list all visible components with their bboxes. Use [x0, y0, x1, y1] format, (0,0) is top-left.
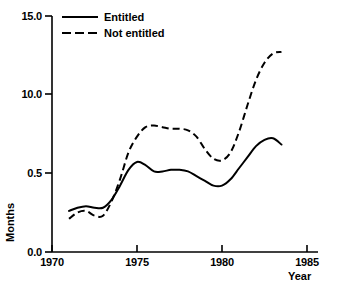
series-line-not-entitled [69, 52, 282, 219]
y-tick-label-5: 0.5 [6, 167, 42, 179]
series-line-entitled [69, 138, 282, 211]
y-tick-label-15: 15.0 [6, 10, 42, 22]
x-tick-label-1970: 1970 [32, 256, 72, 268]
chart-canvas [0, 0, 337, 290]
x-tick-label-1975: 1975 [117, 256, 157, 268]
chart-figure: 15.0 10.0 0.5 0.0 1970 1975 1980 1985 Mo… [0, 0, 337, 290]
x-tick-label-1985: 1985 [287, 256, 327, 268]
y-tick-label-10: 10.0 [6, 88, 42, 100]
x-tick-label-1980: 1980 [202, 256, 242, 268]
legend-label-entitled: Entitled [104, 11, 144, 23]
legend-label-not-entitled: Not entitled [104, 27, 165, 39]
y-axis-title: Months [4, 203, 16, 242]
x-axis-title: Year [288, 270, 311, 282]
